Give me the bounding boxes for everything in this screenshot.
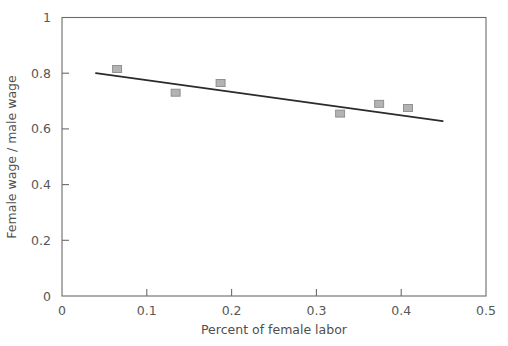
x-tick-label: 0.1 xyxy=(137,303,157,318)
data-points xyxy=(113,66,413,118)
y-tick-label: 0.2 xyxy=(31,233,51,248)
data-point-marker xyxy=(113,66,122,73)
y-tick-label: 0 xyxy=(43,289,51,304)
trend-line-group xyxy=(96,73,443,121)
regression-trend-line xyxy=(96,73,443,121)
y-tick-label: 0.4 xyxy=(31,177,51,192)
x-tick-label: 0.2 xyxy=(222,303,242,318)
scatter-chart: 00.20.40.60.81 00.10.20.30.40.5 Percent … xyxy=(0,0,508,346)
y-tick-label: 0.8 xyxy=(31,66,51,81)
x-axis: 00.10.20.30.40.5 xyxy=(58,289,496,318)
x-tick-label: 0.4 xyxy=(391,303,411,318)
plot-area-border xyxy=(62,18,486,297)
y-tick-label: 0.6 xyxy=(31,121,51,136)
data-point-marker xyxy=(403,105,412,112)
plot-frame xyxy=(62,18,486,297)
data-point-marker xyxy=(375,100,384,107)
x-tick-label: 0 xyxy=(58,303,66,318)
y-axis-title: Female wage / male wage xyxy=(4,75,19,239)
y-tick-label: 1 xyxy=(43,10,51,25)
x-tick-label: 0.3 xyxy=(306,303,326,318)
data-point-marker xyxy=(336,110,345,117)
x-axis-title: Percent of female labor xyxy=(201,322,348,337)
x-tick-label: 0.5 xyxy=(476,303,496,318)
y-axis: 00.20.40.60.81 xyxy=(31,10,69,304)
data-point-marker xyxy=(216,79,225,86)
data-point-marker xyxy=(171,89,180,96)
chart-canvas: 00.20.40.60.81 00.10.20.30.40.5 Percent … xyxy=(0,0,508,346)
